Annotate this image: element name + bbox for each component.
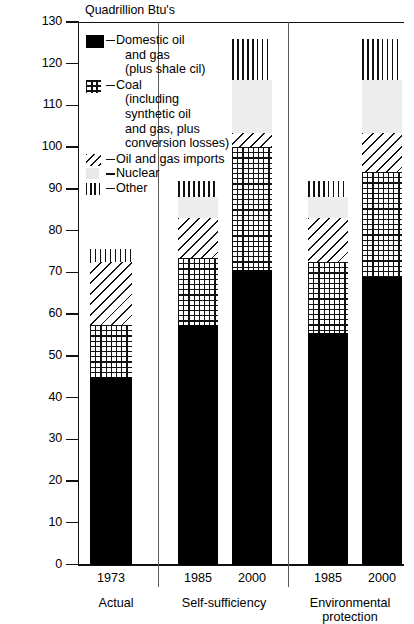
legend-item-coal: Coal (including synthetic oil and gas, p…: [86, 78, 266, 151]
bar-segment-domestic: [178, 325, 218, 565]
bar-2000-4: [362, 39, 402, 565]
legend-label-coal-2: (including: [86, 92, 266, 107]
y-axis-label: 0: [28, 559, 62, 569]
bar-segment-domestic: [362, 277, 402, 565]
legend-item-domestic: Domestic oil and gas (plus shale cil): [86, 33, 266, 77]
bar-segment-imports: [308, 218, 348, 262]
legend-swatch-coal-icon: [86, 80, 101, 93]
group-label-1: Self-sufficiency: [160, 596, 288, 610]
bar-segment-nuclear: [308, 197, 348, 218]
bar-segment-domestic: [232, 270, 272, 564]
legend-label-coal-4: and gas, plus: [86, 122, 266, 137]
legend-dash-icon: [106, 40, 115, 41]
y-axis-tick: [66, 397, 79, 398]
y-axis-tick: [66, 21, 79, 22]
y-axis-tick: [66, 188, 79, 189]
y-axis-label: 100: [28, 141, 62, 151]
group-separator-2: [288, 22, 289, 587]
bar-segment-imports: [90, 262, 132, 325]
bar-segment-coal: [90, 325, 132, 377]
y-axis-label: 10: [28, 517, 62, 527]
legend-swatch-nuclear-icon: [86, 168, 99, 179]
legend-item-other: Other: [86, 181, 266, 196]
y-axis-label: 70: [28, 266, 62, 276]
chart-title: Quadrillion Btu's: [85, 3, 175, 17]
bar-segment-imports: [362, 133, 402, 173]
legend-item-imports: Oil and gas imports: [86, 152, 266, 167]
group-label-0: Actual: [60, 596, 172, 610]
y-axis-tick: [66, 146, 79, 147]
y-axis-tick: [66, 355, 79, 356]
bar-segment-coal: [308, 262, 348, 333]
x-axis-label-2000-2: 2000: [220, 571, 284, 585]
y-axis-tick: [66, 439, 79, 440]
y-axis-label: 60: [28, 308, 62, 318]
y-axis-tick: [66, 272, 79, 273]
legend-swatch-other-icon: [86, 183, 100, 195]
y-axis-label: 40: [28, 392, 62, 402]
y-axis-label: 30: [28, 433, 62, 443]
bar-segment-domestic: [90, 377, 132, 565]
y-axis-label: 80: [28, 225, 62, 235]
y-axis-tick: [66, 522, 79, 523]
y-axis-label: 90: [28, 183, 62, 193]
y-axis-tick: [66, 564, 79, 565]
bar-segment-other: [308, 181, 348, 198]
group-label-2: Environmental protection: [286, 596, 414, 624]
bar-segment-other: [362, 39, 402, 81]
bar-segment-other: [90, 249, 132, 262]
bar-1973-0: [90, 249, 132, 564]
y-axis-tick: [66, 480, 79, 481]
bar-segment-nuclear: [362, 80, 402, 132]
legend-label-coal-3: synthetic oil: [86, 107, 266, 122]
y-axis-label: 130: [28, 16, 62, 26]
y-axis-label: 50: [28, 350, 62, 360]
y-axis-label: 20: [28, 475, 62, 485]
legend-dash-icon: [106, 188, 115, 189]
legend-item-nuclear: Nuclear: [86, 166, 266, 181]
legend-swatch-domestic-icon: [86, 35, 104, 48]
y-axis-tick: [66, 230, 79, 231]
legend-dash-icon: [106, 159, 115, 160]
bar-segment-imports: [178, 218, 218, 258]
bar-segment-coal: [362, 172, 402, 276]
bar-segment-nuclear: [178, 197, 218, 218]
legend-swatch-imports-icon: [86, 154, 101, 166]
y-axis-tick: [66, 105, 79, 106]
y-axis-label: 110: [28, 99, 62, 109]
legend-dash-icon: [106, 173, 115, 174]
x-axis-label-1973-0: 1973: [78, 571, 144, 585]
y-axis-tick: [66, 313, 79, 314]
bar-1985-3: [308, 181, 348, 565]
y-axis-label: 120: [28, 58, 62, 68]
legend-label-domestic-3: (plus shale cil): [86, 62, 266, 77]
legend: Domestic oil and gas (plus shale cil) Co…: [86, 33, 266, 196]
legend-label-coal-5: conversion losses): [86, 136, 266, 151]
x-axis-label-2000-4: 2000: [350, 571, 414, 585]
bar-1985-1: [178, 181, 218, 565]
y-axis-tick: [66, 63, 79, 64]
bar-segment-domestic: [308, 333, 348, 565]
bar-segment-coal: [178, 258, 218, 325]
legend-dash-icon: [106, 85, 115, 86]
legend-label-domestic-2: and gas: [86, 48, 266, 63]
